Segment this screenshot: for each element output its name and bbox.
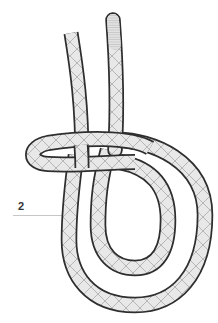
rope-right-strand <box>113 20 116 150</box>
callout-label-2: 2 <box>18 200 24 212</box>
whipping <box>113 20 115 44</box>
knot-diagram <box>0 0 218 323</box>
rope-strand-crossings <box>81 145 82 168</box>
rope-collar <box>33 139 150 164</box>
